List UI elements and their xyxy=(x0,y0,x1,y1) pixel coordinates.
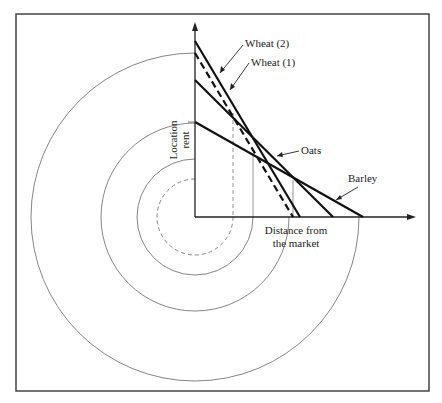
label-leaders xyxy=(220,45,358,200)
curve-barley xyxy=(195,122,363,217)
wheat2-arrowhead-icon xyxy=(220,66,225,73)
location-rent-diagram: Wheat (2) Wheat (1) Oats Barley Location… xyxy=(0,0,442,403)
y-axis-label: Location rent xyxy=(167,120,191,160)
drop-lines xyxy=(233,113,293,217)
axes xyxy=(195,28,410,217)
y-axis-arrow-icon xyxy=(192,22,198,31)
x-axis-label-line1: Distance from xyxy=(265,224,328,236)
y-axis-label-line1: Location xyxy=(167,120,179,160)
label-wheat-1: Wheat (1) xyxy=(251,56,296,69)
curve-wheat-1 xyxy=(195,53,293,217)
x-axis-arrow-icon xyxy=(407,214,416,220)
barley-arrowhead-icon xyxy=(336,195,342,200)
label-barley: Barley xyxy=(348,172,378,184)
x-axis-label-line2: the market xyxy=(273,237,320,249)
label-oats: Oats xyxy=(301,144,321,156)
label-wheat-2: Wheat (2) xyxy=(245,37,290,50)
y-axis-label-line2: rent xyxy=(179,131,191,148)
